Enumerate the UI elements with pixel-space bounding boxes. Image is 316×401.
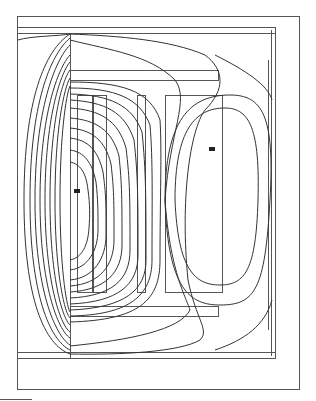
inner-boundary [18,28,276,359]
center-marker [74,189,80,193]
right-marker [209,147,215,151]
contour-plot [0,0,316,401]
inner-coil-2 [94,96,107,293]
top-bar [71,71,219,81]
